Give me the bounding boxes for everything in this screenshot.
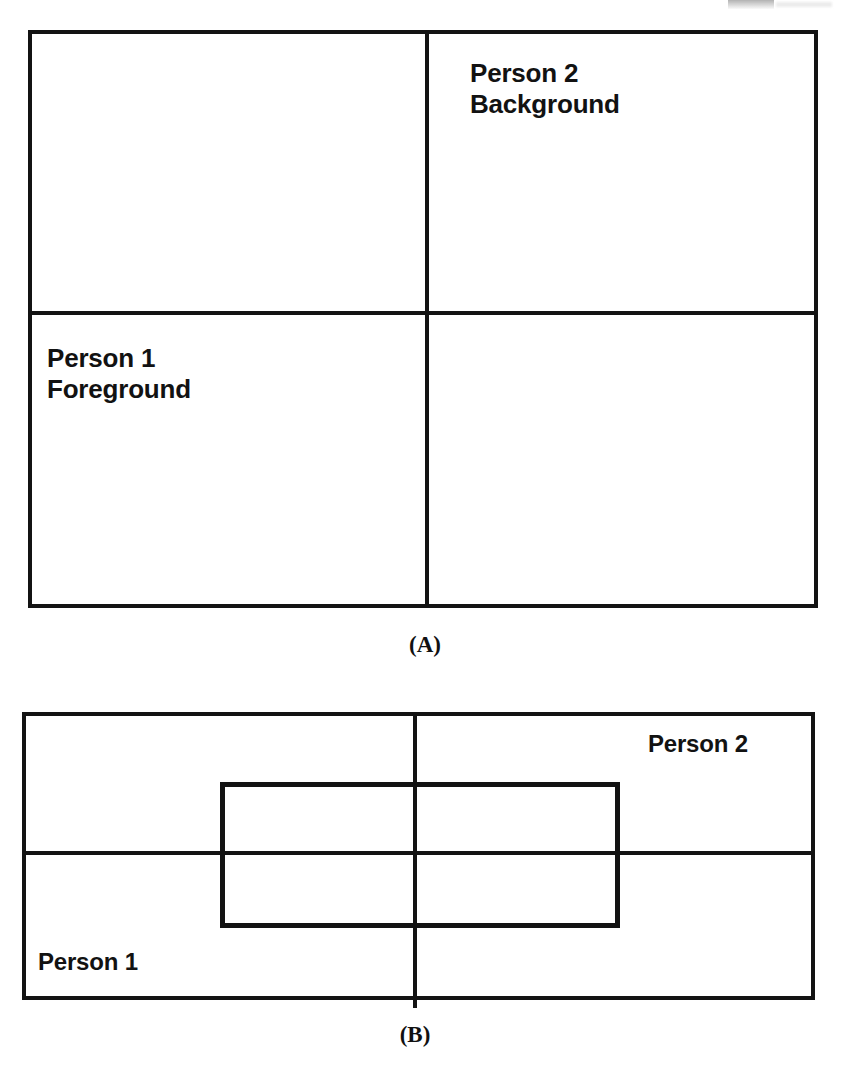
figure-a-label-person-2-background: Person 2 Background <box>470 58 620 119</box>
figure-b-inner-rectangle <box>220 782 620 928</box>
figure-a: Person 2 Background Person 1 Foreground … <box>0 0 843 680</box>
figure-page: Person 2 Background Person 1 Foreground … <box>0 0 843 1066</box>
figure-a-horizontal-divider <box>28 311 818 315</box>
figure-a-frame <box>28 30 818 608</box>
figure-b-caption: (B) <box>355 1022 475 1048</box>
figure-a-caption: (A) <box>365 632 485 658</box>
figure-b-label-person-2: Person 2 <box>648 730 748 758</box>
figure-b: Person 2 Person 1 (B) <box>0 690 843 1066</box>
figure-a-label-person-1-foreground: Person 1 Foreground <box>47 343 191 404</box>
figure-b-label-person-1: Person 1 <box>38 948 138 976</box>
figure-a-vertical-divider <box>425 30 429 608</box>
